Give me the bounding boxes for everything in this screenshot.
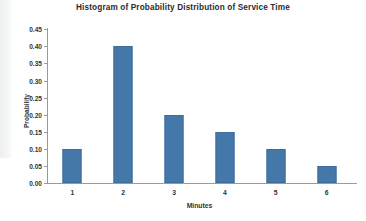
histogram-chart: Histogram of Probability Distribution of… <box>0 0 366 221</box>
y-axis-tick-label: 0.30 <box>29 78 42 85</box>
bar <box>63 149 82 183</box>
x-axis-tick-label: 5 <box>274 189 278 196</box>
bar-slot <box>200 29 251 183</box>
y-axis-tick-label: 0.05 <box>29 163 42 170</box>
chart-title: Histogram of Probability Distribution of… <box>0 3 366 12</box>
y-axis-tick: 0.40 <box>29 37 47 55</box>
y-axis-tick-label: 0.45 <box>29 26 42 33</box>
y-axis-tick-label: 0.00 <box>29 180 42 187</box>
bar <box>114 46 133 183</box>
y-axis-tick: 0.30 <box>29 71 47 89</box>
x-axis-tick-label: 3 <box>172 189 176 196</box>
bar <box>165 115 184 183</box>
x-axis-title: Minutes <box>47 202 352 209</box>
x-axis-tick-label: 2 <box>121 189 125 196</box>
x-axis-line <box>47 183 357 184</box>
bar <box>266 149 285 183</box>
y-axis-tick-label: 0.40 <box>29 43 42 50</box>
bar-slot <box>47 29 98 183</box>
y-axis-tick-label: 0.10 <box>29 146 42 153</box>
y-axis-tick: 0.00 <box>29 174 47 192</box>
y-axis-tick: 0.25 <box>29 88 47 106</box>
y-axis-tick: 0.05 <box>29 157 47 175</box>
bar-slot <box>98 29 149 183</box>
x-axis-tick-label: 4 <box>223 189 227 196</box>
y-axis-tick: 0.20 <box>29 106 47 124</box>
bar-slot <box>149 29 200 183</box>
y-axis-tick: 0.15 <box>29 123 47 141</box>
y-axis-tick-label: 0.25 <box>29 95 42 102</box>
y-axis-tick-label: 0.15 <box>29 129 42 136</box>
y-axis-tick-label: 0.35 <box>29 60 42 67</box>
x-axis-tick-label: 6 <box>325 189 329 196</box>
y-axis-tick: 0.35 <box>29 54 47 72</box>
x-axis-tick-label: 1 <box>71 189 75 196</box>
y-axis-tick-label: 0.20 <box>29 112 42 119</box>
bar <box>215 132 234 183</box>
bar <box>317 166 336 183</box>
y-axis-tick: 0.45 <box>29 20 47 38</box>
bar-slot <box>301 29 352 183</box>
bar-slot <box>250 29 301 183</box>
plot-area: 0.000.050.100.150.200.250.300.350.400.45 <box>47 29 352 183</box>
y-axis-tick-mark <box>44 183 47 184</box>
y-axis-tick: 0.10 <box>29 140 47 158</box>
